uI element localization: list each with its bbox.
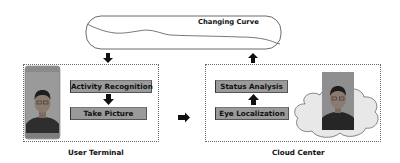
arrow-up-icon (248, 53, 258, 63)
arrow-right-icon (178, 113, 190, 123)
eye-localization-step: Eye Localization (215, 107, 289, 120)
user-terminal-region (23, 64, 159, 142)
cloud-center-label: Cloud Center (272, 148, 325, 157)
arrow-down-icon (103, 53, 113, 63)
changing-curve-title: Changing Curve (198, 18, 259, 26)
cloud-center-region (205, 64, 381, 142)
take-picture-step: Take Picture (70, 107, 147, 120)
status-analysis-step: Status Analysis (215, 80, 288, 93)
activity-recognition-step: Activity Recognition (70, 80, 152, 93)
user-terminal-label: User Terminal (68, 148, 124, 157)
